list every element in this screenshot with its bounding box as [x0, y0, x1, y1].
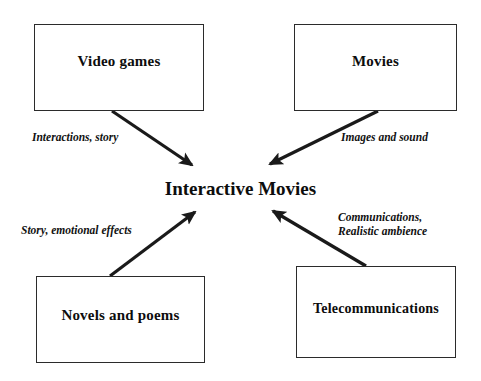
node-label-video-games: Video games	[35, 53, 203, 70]
node-box-movies[interactable]: Movies	[294, 24, 457, 111]
node-label-movies: Movies	[295, 53, 456, 70]
edge-label-communications-line1: Communications,	[338, 211, 427, 225]
edge-label-communications-realistic-ambience: Communications, Realistic ambience	[338, 211, 427, 238]
arrow-video-games-to-center	[112, 111, 192, 165]
node-label-telecommunications: Telecommunications	[297, 301, 455, 317]
edge-label-communications-line2: Realistic ambience	[338, 225, 427, 239]
arrow-novels-to-center	[110, 212, 195, 276]
edge-label-story-emotional-effects: Story, emotional effects	[21, 224, 132, 238]
node-box-video-games[interactable]: Video games	[34, 24, 204, 111]
center-node-interactive-movies: Interactive Movies	[0, 178, 481, 200]
node-box-telecommunications[interactable]: Telecommunications	[296, 266, 456, 358]
node-label-novels-and-poems: Novels and poems	[37, 307, 204, 324]
diagram-canvas: Video games Movies Novels and poems Tele…	[0, 0, 481, 381]
edge-label-interactions-story: Interactions, story	[32, 131, 118, 145]
edge-label-images-and-sound: Images and sound	[341, 131, 428, 145]
node-box-novels-and-poems[interactable]: Novels and poems	[36, 276, 205, 363]
